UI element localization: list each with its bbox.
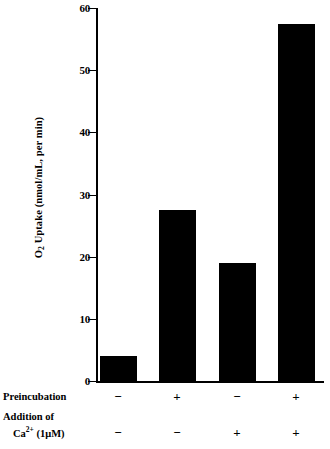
x-axis-baseline [96,381,324,383]
y-axis-tick-label: 50 [68,65,90,76]
condition-row: Preincubation−+−+ [0,386,330,412]
y-axis-tick-label: 60 [68,3,90,14]
bar [159,210,196,381]
bar [100,356,137,381]
y-axis-line [96,8,98,382]
bar [278,24,315,381]
condition-row: Addition ofCa2+ (1μM)−−++ [0,412,330,446]
condition-row-label: Preincubation [3,390,66,403]
condition-cell: − [100,426,137,440]
charge-superscript: 2+ [26,425,34,434]
condition-cell: − [100,390,137,404]
y-axis-tick-label: 40 [68,127,90,138]
y-axis-title: O2 Uptake (nmol/mL, per min) [33,78,44,298]
y-axis-title-pre: O [33,250,44,258]
bar-chart-figure: O2 Uptake (nmol/mL, per min) 01020304050… [0,0,330,449]
condition-table: Preincubation−+−+Addition ofCa2+ (1μM)−−… [0,386,330,446]
y-axis-tick-label: 30 [68,190,90,201]
y-axis-tick-label: 20 [68,252,90,263]
condition-row-label-line2: Ca2+ (1μM) [3,423,65,440]
bar [219,263,256,381]
condition-row-label: Addition ofCa2+ (1μM) [3,410,65,440]
condition-cell: − [219,390,256,404]
condition-cell: + [219,426,256,440]
condition-cell: + [278,426,315,440]
condition-cell: + [278,390,315,404]
condition-cell: + [159,390,196,404]
y-axis-title-subscript: 2 [37,246,46,250]
condition-cell: − [159,426,196,440]
y-axis-title-post: Uptake (nmol/mL, per min) [33,117,44,246]
y-axis-tick-label: 10 [68,314,90,325]
condition-row-label-line1: Addition of [3,410,65,423]
